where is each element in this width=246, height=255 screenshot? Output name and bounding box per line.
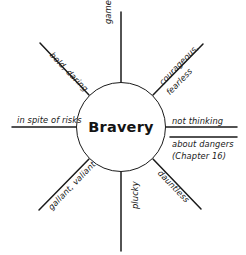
spoke-label-up: game, gritty xyxy=(103,0,114,24)
spoke-label-left: in spite of risks xyxy=(17,115,82,126)
word-web-diagram: Bravery game, gritty courageous, fearles… xyxy=(0,0,246,255)
spoke-label-down: plucky xyxy=(130,181,141,209)
spoke-label-right-line2: about dangers xyxy=(172,139,234,150)
spoke-label-right-line1: not thinking xyxy=(172,116,223,127)
spoke-label-right-line3: (Chapter 16) xyxy=(172,151,226,162)
center-node-label: Bravery xyxy=(88,119,153,135)
